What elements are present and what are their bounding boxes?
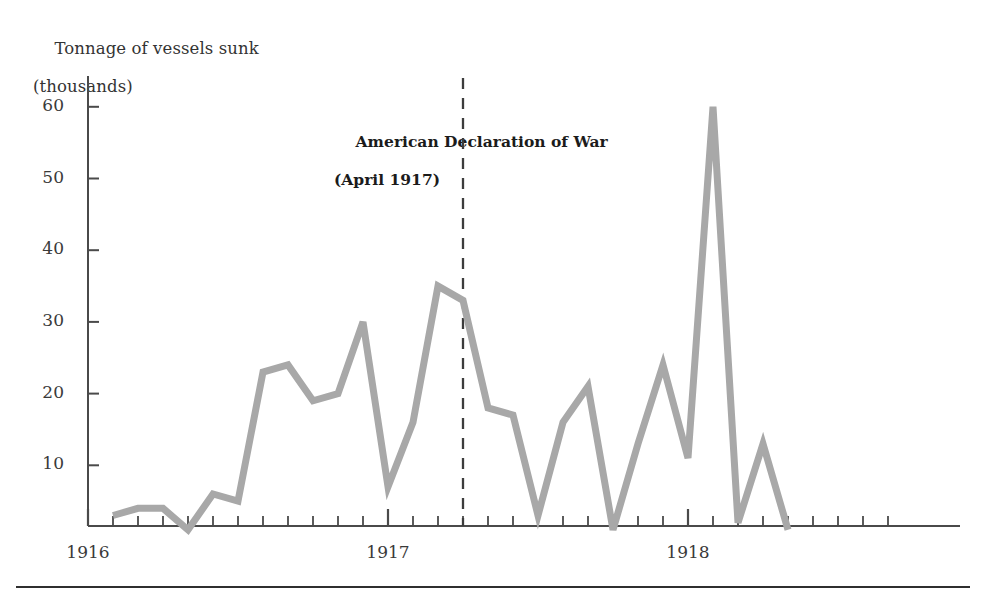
bottom-divider-rule (16, 586, 970, 588)
y-axis-tick-label: 40 (22, 238, 64, 258)
x-axis-ticks (88, 509, 888, 526)
x-axis-tick-label: 1917 (353, 542, 423, 562)
chart-plot-area (0, 0, 984, 609)
y-axis-tick-label: 60 (22, 95, 64, 115)
tonnage-line-series (113, 107, 788, 530)
y-axis-tick-label: 30 (22, 310, 64, 330)
y-axis-tick-label: 10 (22, 453, 64, 473)
x-axis-tick-label: 1918 (653, 542, 723, 562)
x-axis-tick-label: 1916 (53, 542, 123, 562)
y-axis-tick-label: 20 (22, 382, 64, 402)
chart-figure: Tonnage of vessels sunk (thousands) Amer… (0, 0, 984, 609)
y-axis-tick-label: 50 (22, 167, 64, 187)
y-axis-ticks (88, 107, 99, 466)
